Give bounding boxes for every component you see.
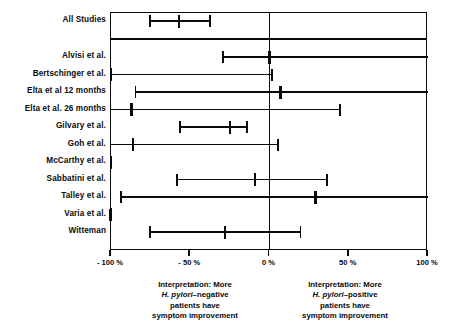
confidence-interval-row bbox=[111, 173, 428, 187]
confidence-interval-lower-cap bbox=[149, 226, 151, 238]
point-estimate-marker bbox=[229, 121, 231, 134]
confidence-interval-lower-cap bbox=[149, 15, 151, 27]
summary-separator-rule bbox=[111, 38, 426, 39]
x-axis-tick-label: 0 % bbox=[262, 258, 275, 267]
point-estimate-marker bbox=[130, 103, 132, 116]
study-label: Talley et al. bbox=[0, 191, 106, 200]
point-estimate-marker bbox=[314, 191, 316, 204]
confidence-interval-upper-cap bbox=[271, 69, 273, 81]
point-estimate-marker bbox=[254, 173, 256, 186]
plot-area bbox=[110, 12, 427, 250]
point-estimate-marker bbox=[132, 138, 134, 151]
confidence-interval-row bbox=[111, 155, 428, 169]
x-axis-tick bbox=[268, 250, 270, 256]
interpretation-caption-left: Interpretation: MoreH. pylori–negativepa… bbox=[115, 280, 275, 322]
organism-name: H. pylori bbox=[161, 290, 192, 299]
x-axis-tick bbox=[109, 250, 111, 256]
x-axis-tick bbox=[426, 250, 428, 256]
confidence-interval-line bbox=[111, 144, 279, 146]
x-axis-tick bbox=[188, 250, 190, 256]
confidence-interval-row bbox=[111, 85, 428, 99]
organism-name: H. pylori bbox=[312, 290, 343, 299]
confidence-interval-row bbox=[111, 190, 428, 204]
confidence-interval-row bbox=[111, 103, 428, 117]
point-estimate-marker bbox=[110, 156, 112, 169]
confidence-interval-row bbox=[111, 14, 428, 28]
study-label: Witteman bbox=[0, 226, 106, 235]
forest-plot-figure: All StudiesAlvisi et al.Bertschinger et … bbox=[0, 0, 451, 331]
study-label: Goh et al. bbox=[0, 139, 106, 148]
confidence-interval-line bbox=[111, 74, 273, 76]
status-qualifier: –positive bbox=[344, 290, 378, 299]
interpretation-caption-right: Interpretation: MoreH. pylori–positivepa… bbox=[265, 280, 425, 322]
confidence-interval-line bbox=[179, 126, 247, 128]
confidence-interval-upper-cap bbox=[209, 15, 211, 27]
confidence-interval-line bbox=[121, 196, 428, 198]
confidence-interval-row bbox=[111, 225, 428, 239]
confidence-interval-lower-cap bbox=[179, 121, 181, 133]
plot-inner bbox=[111, 13, 426, 249]
study-label: Varia et al. bbox=[0, 209, 106, 218]
study-label: Sabbatini et al. bbox=[0, 174, 106, 183]
x-axis-tick-label: - 50 % bbox=[178, 258, 200, 267]
interpretation-line-3: patients have bbox=[265, 301, 425, 311]
x-axis-ticks bbox=[110, 250, 427, 257]
interpretation-line-1: Interpretation: More bbox=[265, 280, 425, 290]
x-axis-tick bbox=[347, 250, 349, 256]
confidence-interval-lower-cap bbox=[222, 51, 224, 63]
confidence-interval-lower-cap bbox=[135, 86, 137, 98]
study-label: Bertschinger et al. bbox=[0, 69, 106, 78]
interpretation-line-3: patients have bbox=[115, 301, 275, 311]
study-label: All Studies bbox=[0, 15, 106, 24]
confidence-interval-upper-cap bbox=[339, 104, 341, 116]
confidence-interval-line bbox=[176, 179, 328, 181]
study-label: Alvisi et al. bbox=[0, 51, 106, 60]
x-axis-tick-label: 50 % bbox=[339, 258, 356, 267]
study-label: Elta et al 12 months bbox=[0, 86, 106, 95]
x-axis-tick-labels: - 100 %- 50 %0 %50 %100 % bbox=[0, 258, 451, 270]
confidence-interval-line bbox=[111, 109, 341, 111]
x-axis-tick-label: - 100 % bbox=[97, 258, 123, 267]
confidence-interval-lower-cap bbox=[120, 191, 122, 203]
study-label: Gilvary et al. bbox=[0, 121, 106, 130]
confidence-interval-row bbox=[111, 138, 428, 152]
confidence-interval-lower-cap bbox=[176, 174, 178, 186]
point-estimate-marker bbox=[279, 86, 281, 99]
interpretation-line-2: H. pylori–positive bbox=[265, 290, 425, 300]
study-label: McCarthy et al. bbox=[0, 156, 106, 165]
confidence-interval-line bbox=[222, 56, 428, 58]
confidence-interval-row bbox=[111, 120, 428, 134]
point-estimate-marker bbox=[268, 51, 270, 64]
confidence-interval-upper-cap bbox=[246, 121, 248, 133]
interpretation-line-2: H. pylori–negative bbox=[115, 290, 275, 300]
confidence-interval-upper-cap bbox=[277, 139, 279, 151]
interpretation-line-4: symptom improvement bbox=[265, 311, 425, 321]
confidence-interval-upper-cap bbox=[326, 174, 328, 186]
confidence-interval-upper-cap bbox=[300, 226, 302, 238]
x-axis-tick-label: 100 % bbox=[416, 258, 438, 267]
study-label-column: All StudiesAlvisi et al.Bertschinger et … bbox=[0, 0, 106, 260]
status-qualifier: –negative bbox=[193, 290, 229, 299]
point-estimate-marker bbox=[110, 208, 112, 221]
confidence-interval-row bbox=[111, 208, 428, 222]
point-estimate-marker bbox=[178, 15, 180, 28]
interpretation-line-1: Interpretation: More bbox=[115, 280, 275, 290]
interpretation-line-4: symptom improvement bbox=[115, 311, 275, 321]
study-label: Elta et al. 26 months bbox=[0, 104, 106, 113]
confidence-interval-row bbox=[111, 50, 428, 64]
confidence-interval-row bbox=[111, 68, 428, 82]
point-estimate-marker bbox=[224, 226, 226, 239]
point-estimate-marker bbox=[110, 68, 112, 81]
